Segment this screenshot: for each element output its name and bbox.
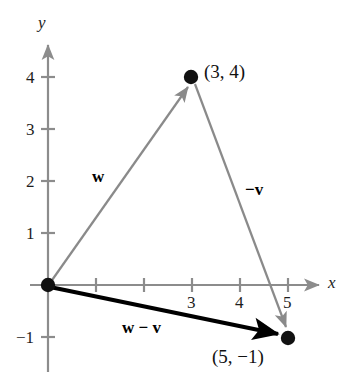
point-label-5-neg1: (5, −1) [212,347,264,366]
y-tick-label-neg1: −1 [16,329,34,346]
point-label-3-4: (3, 4) [204,62,245,81]
y-tick-label-1: 1 [26,225,35,242]
axis-group [30,45,319,372]
x-tick-label-4: 4 [235,294,244,311]
vector-group [50,84,286,334]
x-tick-label-5: 5 [283,294,292,311]
vector-w-arrow [50,87,188,283]
vector-label-w-minus-v: w − v [122,319,161,336]
y-tick-label-4: 4 [26,69,35,86]
vector-label-neg-v: −v [245,181,263,198]
y-axis-label: y [38,14,46,31]
vector-diagram-canvas [0,0,353,387]
y-tick-label-3: 3 [26,121,35,138]
vector-label-w: w [92,168,104,185]
point-3-4-dot [184,70,198,84]
x-tick-label-3: 3 [187,294,196,311]
point-group [41,70,295,345]
y-tick-label-2: 2 [26,173,35,190]
x-axis-label: x [328,274,336,291]
point-origin-dot [41,278,55,292]
point-5-neg1-dot [281,331,295,345]
